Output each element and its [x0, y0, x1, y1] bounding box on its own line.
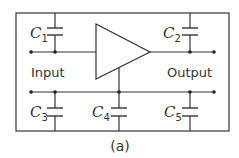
- c1-junction-dot: [53, 50, 57, 54]
- figure-caption: (a): [110, 138, 130, 154]
- c1-label: C1: [30, 24, 48, 44]
- c3-junction-dot: [53, 90, 57, 94]
- c5-label: C5: [164, 103, 182, 123]
- amplifier-triangle-icon: [96, 24, 150, 79]
- c2-junction-dot: [188, 50, 192, 54]
- capacitor-c2: C2: [163, 13, 198, 52]
- c4-label: C4: [92, 103, 110, 123]
- circuit-diagram: C1 C2 C3 C4 C5 Input O: [0, 0, 239, 158]
- output-label: Output: [167, 65, 212, 80]
- c2-label: C2: [163, 24, 181, 44]
- capacitor-c1: C1: [30, 13, 63, 52]
- input-label: Input: [31, 65, 65, 80]
- input-terminal-dot: [29, 50, 33, 54]
- c3-label: C3: [30, 103, 48, 123]
- capacitor-c4: C4: [92, 92, 127, 131]
- capacitor-c5: C5: [164, 92, 198, 131]
- output-terminal-dot: [212, 50, 216, 54]
- bottom-left-terminal-dot: [29, 90, 33, 94]
- c4-junction-dot: [117, 90, 121, 94]
- bottom-right-terminal-dot: [212, 90, 216, 94]
- c5-junction-dot: [188, 90, 192, 94]
- capacitor-c3: C3: [30, 92, 63, 131]
